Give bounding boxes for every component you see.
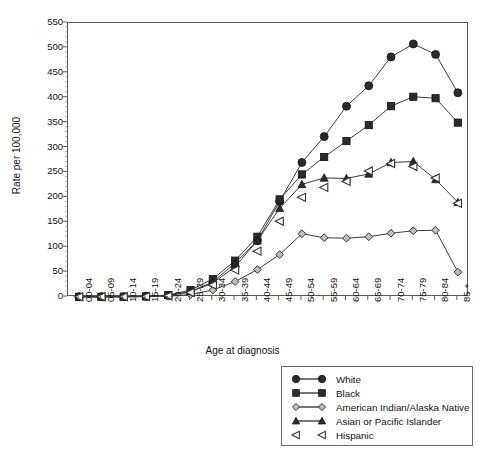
legend-label: Asian or Pacific Islander	[332, 416, 441, 427]
x-axis-tick-label: 15-19	[149, 290, 160, 302]
legend-label: American Indian/Alaska Native	[332, 402, 469, 413]
x-axis-tick-label: 00-04	[83, 290, 94, 302]
x-axis-tick-label: 60-64	[350, 290, 361, 302]
chart-root: Rate per 100,000 05010015020025030035040…	[0, 0, 485, 454]
x-axis-tick-label: 35-39	[239, 290, 250, 302]
legend-marker-square-filled-icon	[290, 386, 332, 400]
x-axis-tick-label: 45-49	[283, 290, 294, 302]
legend-marker-triangle-filled-icon	[290, 414, 332, 428]
chart-legend: WhiteBlackAmerican Indian/Alaska NativeA…	[281, 366, 473, 446]
x-axis-tick-label: 50-54	[305, 290, 316, 302]
legend-entry: Asian or Pacific Islander	[290, 414, 466, 428]
x-axis-tick-label: 10-14	[127, 290, 138, 302]
x-axis-tick-label: 85 +	[461, 290, 472, 302]
legend-label: White	[332, 374, 361, 385]
x-axis-tick-label: 20-24	[172, 290, 183, 302]
x-axis-tick-label: 80-84	[439, 290, 450, 302]
legend-label: Hispanic	[332, 430, 374, 441]
x-axis-tick-label: 25-29	[194, 290, 205, 302]
x-axis-tick-label: 30-34	[216, 290, 227, 302]
x-axis-tick-label: 70-74	[395, 290, 406, 302]
legend-marker-circle-filled-icon	[290, 372, 332, 386]
legend-entry: Black	[290, 386, 466, 400]
x-axis-tick-label: 05-09	[105, 290, 116, 302]
legend-marker-triangle-left-open-icon	[290, 428, 332, 442]
x-axis-tick-label: 65-69	[372, 290, 383, 302]
x-axis-tick-label: 40-44	[261, 290, 272, 302]
x-axis-title: Age at diagnosis	[0, 345, 485, 356]
legend-marker-diamond-open-icon	[290, 400, 332, 414]
legend-entry: White	[290, 372, 466, 386]
legend-entry: American Indian/Alaska Native	[290, 400, 466, 414]
x-axis-tick-label: 55-59	[328, 290, 339, 302]
legend-label: Black	[332, 388, 360, 399]
x-axis-tick-label: 75-79	[417, 290, 428, 302]
legend-entry: Hispanic	[290, 428, 466, 442]
